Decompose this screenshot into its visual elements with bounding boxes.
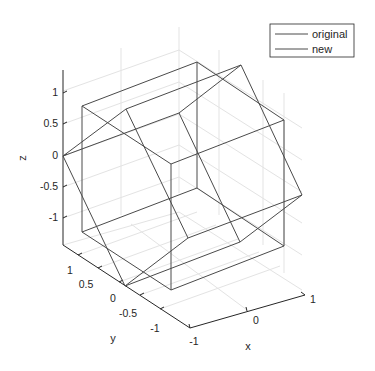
plot-area: 1 0.5 0 -0.5 -1 z 1 0.5 0 -0.5 -1 y -1 0… [0,0,375,371]
svg-text:-1: -1 [150,322,159,334]
svg-text:1: 1 [52,86,58,98]
svg-text:-0.5: -0.5 [119,307,137,319]
legend-label-new: new [312,43,332,55]
svg-text:-1: -1 [189,335,198,347]
x-axis-label: x [245,340,251,352]
z-axis-label: z [16,155,28,161]
x-tick-labels: -1 0 1 [189,293,316,347]
series-original [82,62,284,290]
y-axis-label: y [110,332,116,344]
z-tick-labels: 1 0.5 0 -0.5 -1 [40,86,58,223]
svg-text:0.5: 0.5 [79,278,94,290]
legend: original new [270,24,354,57]
svg-text:0.5: 0.5 [43,117,58,129]
legend-label-original: original [312,28,347,40]
svg-text:0: 0 [52,149,58,161]
svg-text:-1: -1 [49,211,58,223]
svg-text:-0.5: -0.5 [40,180,58,192]
svg-text:1: 1 [67,264,73,276]
svg-text:0: 0 [253,314,259,326]
svg-text:0: 0 [110,292,116,304]
x-axis-line [190,295,305,328]
svg-text:1: 1 [310,293,316,305]
